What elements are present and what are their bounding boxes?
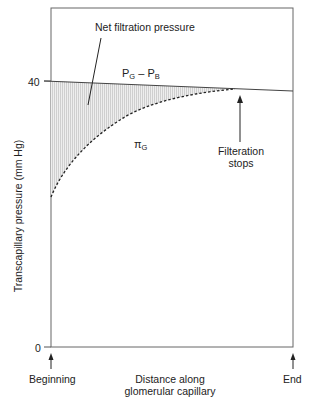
y-tick-label-40: 40 <box>28 76 40 88</box>
y-axis-label: Transcapillary pressure (mm Hg) <box>12 136 24 296</box>
y-tick-label-0: 0 <box>35 342 41 354</box>
pi-g-label: πG <box>134 138 147 154</box>
end-arrowhead <box>291 353 296 360</box>
chart-canvas <box>0 0 310 405</box>
plot-frame <box>51 8 293 347</box>
pg-pb-label: PG – PB <box>122 67 160 83</box>
beginning-arrowhead <box>49 353 54 360</box>
beginning-label: Beginning <box>29 373 76 385</box>
net-filtration-label: Net filtration pressure <box>95 21 195 33</box>
filtration-stops-label: Filteration stops <box>212 145 270 169</box>
filtration-stops-arrowhead <box>237 95 243 103</box>
end-label: End <box>283 373 302 385</box>
x-axis-label: Distance along glomerular capillary <box>110 373 230 397</box>
